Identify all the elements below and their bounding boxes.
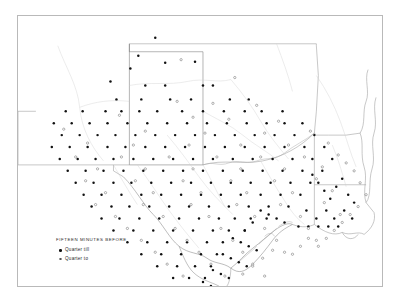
data-point (164, 61, 166, 63)
data-point (299, 215, 301, 217)
data-point (61, 134, 63, 136)
data-point (53, 122, 55, 124)
data-point (132, 229, 134, 231)
data-point (214, 134, 216, 136)
data-point (134, 134, 136, 136)
data-point (259, 209, 261, 211)
data-point (223, 110, 225, 112)
data-point (204, 132, 206, 134)
data-point (341, 221, 343, 223)
data-point (277, 120, 279, 122)
data-point (152, 158, 154, 160)
legend-title: FIFTEEN MINUTES BEFORE (56, 238, 176, 242)
data-point (200, 253, 202, 255)
data-point (162, 215, 164, 217)
data-point (212, 229, 214, 231)
data-point (188, 277, 190, 279)
data-point (174, 134, 176, 136)
data-point (256, 104, 258, 106)
data-point (172, 277, 174, 279)
open-circle-icon (56, 258, 65, 261)
data-point (261, 170, 263, 172)
data-point (208, 215, 210, 217)
data-point (293, 134, 295, 136)
data-point (138, 217, 140, 219)
data-point (120, 193, 122, 195)
data-point (323, 201, 325, 203)
data-point (247, 205, 249, 207)
data-point (78, 134, 80, 136)
data-point (70, 122, 72, 124)
data-point (206, 122, 208, 124)
data-point (224, 146, 226, 148)
data-point (86, 146, 88, 148)
data-point (156, 265, 158, 267)
data-point (109, 80, 111, 82)
data-point (128, 205, 130, 207)
data-point (192, 229, 194, 231)
data-point (198, 217, 200, 219)
data-point (246, 192, 248, 194)
data-point (228, 118, 230, 120)
data-point (242, 251, 244, 253)
data-point (321, 166, 323, 168)
data-point (291, 192, 293, 194)
data-point (174, 227, 176, 229)
data-point (353, 170, 355, 172)
data-point (162, 170, 164, 172)
data-point (220, 273, 222, 275)
data-point (232, 239, 234, 241)
data-point (247, 245, 249, 247)
data-point (100, 193, 102, 195)
data-point (168, 156, 170, 158)
data-point (247, 98, 249, 100)
data-point (291, 253, 293, 255)
data-point (190, 182, 192, 184)
data-point (297, 225, 299, 227)
data-point (169, 98, 171, 100)
rivers-layer (58, 44, 356, 248)
data-point (172, 229, 174, 231)
data-point (317, 245, 319, 247)
data-point (335, 185, 337, 187)
data-point (349, 213, 351, 215)
data-point (216, 156, 218, 158)
data-point (118, 114, 120, 116)
data-point (150, 182, 152, 184)
data-point (283, 122, 285, 124)
data-point (283, 146, 285, 148)
data-point (170, 182, 172, 184)
data-point (134, 180, 136, 182)
filled-dot-icon (56, 249, 65, 252)
data-point (301, 122, 303, 124)
data-point (323, 146, 325, 148)
data-point (100, 217, 102, 219)
data-point (168, 205, 170, 207)
data-point (126, 122, 128, 124)
data-point (234, 217, 236, 219)
data-point (112, 229, 114, 231)
data-point (341, 178, 343, 180)
data-point (180, 253, 182, 255)
data-point (357, 205, 359, 207)
data-point (333, 229, 335, 231)
data-point (192, 158, 194, 160)
data-point (86, 142, 88, 144)
data-point (263, 146, 265, 148)
data-point (104, 192, 106, 194)
data-point (110, 205, 112, 207)
data-point (253, 134, 255, 136)
data-point (246, 265, 248, 267)
data-point (181, 110, 183, 112)
data-point (112, 182, 114, 184)
data-point (132, 158, 134, 160)
data-point (303, 156, 305, 158)
data-point (154, 134, 156, 136)
data-point (339, 213, 341, 215)
data-point (144, 146, 146, 148)
data-point (242, 170, 244, 172)
data-point (222, 241, 224, 243)
data-point (281, 170, 283, 172)
data-point (249, 217, 251, 219)
data-point (198, 251, 200, 253)
